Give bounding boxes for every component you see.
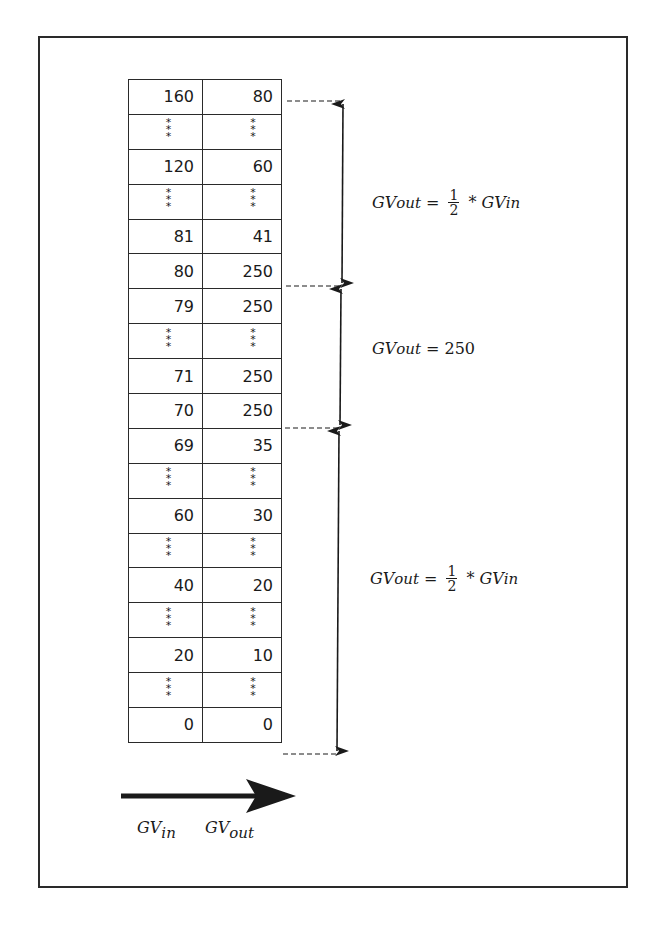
fraction: 12: [446, 564, 457, 593]
range-arrow-upper-icon: [342, 104, 343, 283]
arrows-overlay: [0, 0, 650, 926]
label-gv-in: GVin: [137, 818, 176, 837]
fraction: 12: [448, 188, 459, 217]
label-gv-out: GVout: [205, 818, 254, 837]
formula-lower: GVout = 12 * GVin: [370, 564, 518, 593]
formula-upper: GVout = 12 * GVin: [372, 188, 520, 217]
mapping-direction-arrow-icon: [121, 779, 296, 813]
range-arrow-middle-icon: [340, 289, 341, 425]
range-arrow-lower-icon: [337, 431, 339, 751]
formula-middle: GVout = 250: [372, 339, 475, 358]
